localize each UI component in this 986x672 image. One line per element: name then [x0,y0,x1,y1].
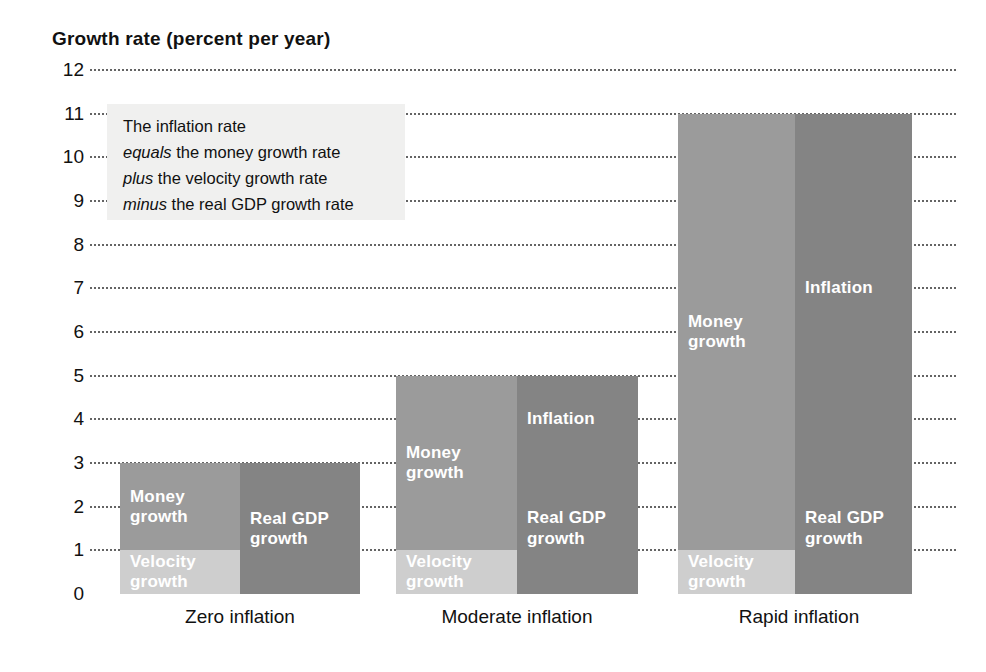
annotation-emphasis: plus [123,169,153,187]
bar-segment-velocity-growth: Velocity growth [396,550,517,594]
bar-rapid-inflation-uses: Real GDP growthInflation [795,114,912,594]
bar-segment-real-gdp-growth: Real GDP growth [517,463,638,594]
y-axis-tick-10: 10 [44,147,84,166]
y-axis-tick-2: 2 [44,497,84,516]
bar-segment-velocity-growth: Velocity growth [678,550,795,594]
annotation-line-2: equals the money growth rate [123,139,393,165]
annotation-line-3: plus the velocity growth rate [123,165,393,191]
bar-segment-velocity-growth: Velocity growth [120,550,240,594]
bar-segment-velocity-growth-label: Velocity growth [130,552,234,592]
bar-segment-money-growth: Money growth [120,463,240,550]
bar-segment-inflation-label: Inflation [805,278,906,298]
y-axis-tick-4: 4 [44,409,84,428]
chart-title: Growth rate (percent per year) [52,28,330,50]
y-axis-tick-9: 9 [44,191,84,210]
bar-segment-money-growth-label: Money growth [688,312,789,352]
bar-moderate-inflation-uses: Real GDP growthInflation [517,376,638,594]
x-axis-label-rapid-inflation: Rapid inflation [659,606,939,628]
bar-moderate-inflation-sources: Velocity growthMoney growth [396,376,517,594]
bar-segment-money-growth: Money growth [678,114,795,551]
y-axis-tick-0: 0 [44,584,84,603]
bar-zero-inflation-sources: Velocity growthMoney growth [120,463,240,594]
y-axis-tick-12: 12 [44,60,84,79]
annotation-line-1: The inflation rate [123,113,393,139]
y-axis-tick-3: 3 [44,453,84,472]
bar-segment-inflation: Inflation [795,114,912,463]
bar-segment-money-growth: Money growth [396,376,517,551]
bar-segment-real-gdp-growth: Real GDP growth [795,463,912,594]
bar-segment-real-gdp-growth-label: Real GDP growth [805,508,906,548]
x-axis-label-zero-inflation: Zero inflation [100,606,380,628]
y-axis-tick-6: 6 [44,322,84,341]
bar-segment-money-growth-label: Money growth [130,487,234,527]
x-axis-label-moderate-inflation: Moderate inflation [377,606,657,628]
annotation-emphasis: equals [123,143,172,161]
bar-segment-velocity-growth-label: Velocity growth [406,552,511,592]
chart-root: Growth rate (percent per year) 121110987… [0,0,986,672]
bar-zero-inflation-uses: Real GDP growth [240,463,360,594]
y-axis-tick-11: 11 [44,104,84,123]
annotation-emphasis: minus [123,195,167,213]
bar-segment-money-growth-label: Money growth [406,443,511,483]
bar-segment-real-gdp-growth-label: Real GDP growth [250,508,354,548]
bar-segment-inflation-label: Inflation [527,409,632,429]
y-axis-tick-1: 1 [44,540,84,559]
bar-rapid-inflation-sources: Velocity growthMoney growth [678,114,795,594]
gridline-12 [90,69,956,73]
y-axis-tick-5: 5 [44,366,84,385]
y-axis-tick-7: 7 [44,278,84,297]
annotation-callout: The inflation rateequals the money growt… [107,104,405,220]
bar-segment-real-gdp-growth: Real GDP growth [240,463,360,594]
y-axis: 1211109876543210 [36,70,84,594]
bar-segment-inflation: Inflation [517,376,638,463]
annotation-line-4: minus the real GDP growth rate [123,191,393,217]
y-axis-tick-8: 8 [44,235,84,254]
bar-segment-velocity-growth-label: Velocity growth [688,552,789,592]
bar-segment-real-gdp-growth-label: Real GDP growth [527,508,632,548]
